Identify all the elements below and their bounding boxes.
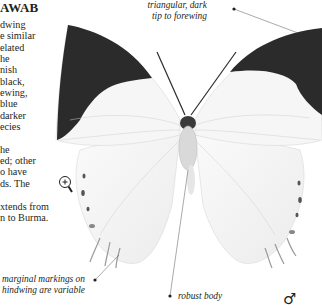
magnifier-plus-icon[interactable] [58,175,74,195]
leader-dot [168,294,171,297]
annotation-line: marginal markings on [2,274,85,285]
right-hindwing [195,135,304,263]
leader-dot [232,7,235,10]
annotation-line: hindwing are variable [2,285,85,296]
left-hindwing [76,135,180,263]
annotation-body: robust body [178,291,222,302]
butterfly-illustration [0,0,322,308]
annotation-hindwing-markings: marginal markings on hindwing are variab… [2,274,85,295]
abdomen [179,126,197,170]
annotation-line: triangular, dark [146,0,207,11]
annotation-forewing-tip: triangular, dark tip to forewing [146,0,207,21]
abdomen-tail [187,165,195,195]
annotation-line: tip to forewing [152,11,207,22]
male-symbol: ♂ [283,290,296,308]
leader-dot [93,278,96,281]
